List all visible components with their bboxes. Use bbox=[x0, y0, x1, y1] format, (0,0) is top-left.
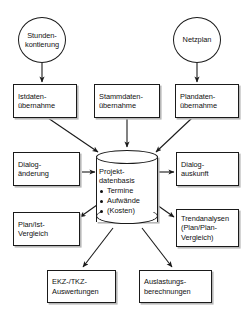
node-trendanalysen-label: Trendanalysen (Plan/Plan- Vergleich) bbox=[181, 214, 229, 242]
node-dialog-auskunft[interactable]: Dialog- auskunft bbox=[176, 152, 239, 186]
node-stundenkontierung-label: Stunden- kontierung bbox=[25, 31, 59, 49]
node-dialog-aenderung-label: Dialog- änderung bbox=[18, 160, 49, 178]
projektdatenbasis-title: Projekt- datenbasis bbox=[99, 167, 157, 185]
connector-db-ekztkz bbox=[83, 228, 113, 267]
node-stammdaten-uebernahme-label: Stammdaten- übernahme bbox=[99, 92, 143, 110]
bullet-kosten: (Kosten) bbox=[99, 206, 157, 216]
node-istdaten-uebernahme[interactable]: Istdaten- übernahme bbox=[13, 84, 77, 118]
connector-db-auslastung bbox=[142, 228, 172, 267]
node-auslastungsberechnungen-label: Auslastungs- berechnungen bbox=[144, 277, 191, 295]
node-ekz-tkz-auswertungen[interactable]: EKZ-/TKZ- Auswertungen bbox=[47, 270, 116, 303]
connector-plandaten-db bbox=[156, 118, 192, 152]
node-dialog-aenderung[interactable]: Dialog- änderung bbox=[13, 152, 80, 186]
node-projektdatenbasis[interactable]: Projekt- datenbasis Termine Aufwände (Ko… bbox=[96, 150, 158, 228]
cylinder-top-ellipse bbox=[96, 150, 158, 164]
node-plandaten-uebernahme-label: Plandaten- übernahme bbox=[180, 92, 217, 110]
node-ekz-tkz-auswertungen-label: EKZ-/TKZ- Auswertungen bbox=[52, 277, 99, 295]
connector-istdaten-db bbox=[48, 118, 98, 152]
node-plan-ist-vergleich-label: Plan/Ist- Vergleich bbox=[18, 220, 48, 238]
node-stundenkontierung[interactable]: Stunden- kontierung bbox=[18, 17, 66, 63]
node-plan-ist-vergleich[interactable]: Plan/Ist- Vergleich bbox=[13, 212, 80, 246]
node-netzplan-label: Netzplan bbox=[183, 35, 212, 44]
bullet-aufwaende: Aufwände bbox=[99, 196, 157, 206]
bullet-termine: Termine bbox=[99, 186, 157, 196]
projektdatenbasis-content: Projekt- datenbasis Termine Aufwände (Ko… bbox=[99, 167, 157, 216]
connector-db-planist bbox=[80, 205, 97, 217]
node-auslastungsberechnungen[interactable]: Auslastungs- berechnungen bbox=[139, 270, 212, 303]
node-plandaten-uebernahme[interactable]: Plandaten- übernahme bbox=[175, 84, 239, 118]
diagram-canvas: Stunden- kontierung Netzplan Istdaten- ü… bbox=[0, 0, 252, 322]
node-trendanalysen[interactable]: Trendanalysen (Plan/Plan- Vergleich) bbox=[176, 209, 239, 247]
node-netzplan[interactable]: Netzplan bbox=[173, 17, 221, 63]
connector-db-trendanalysen bbox=[157, 205, 174, 217]
projektdatenbasis-bullet-list: Termine Aufwände (Kosten) bbox=[99, 186, 157, 216]
node-dialog-auskunft-label: Dialog- auskunft bbox=[181, 160, 209, 178]
node-stammdaten-uebernahme[interactable]: Stammdaten- übernahme bbox=[94, 84, 160, 118]
node-istdaten-uebernahme-label: Istdaten- übernahme bbox=[18, 92, 55, 110]
